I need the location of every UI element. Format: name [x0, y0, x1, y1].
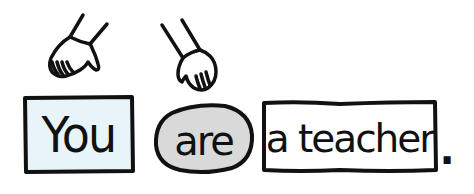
complement-word: a teacher [262, 101, 437, 172]
right-hand-icon [162, 20, 216, 90]
subject-word: You [28, 97, 128, 172]
verb-word: are [155, 105, 252, 172]
left-hand-icon [50, 15, 107, 77]
sentence-period: . [439, 130, 455, 170]
sentence-diagram: You are a teacher . [0, 0, 474, 194]
